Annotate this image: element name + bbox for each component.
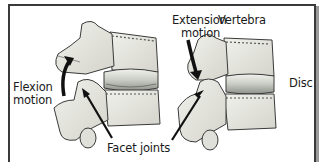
flexion-motion-label: Flexion motion [13, 81, 53, 107]
lower-vertebra-body-left [104, 90, 160, 126]
disc-label: Disc [289, 77, 313, 90]
vertebra-label: Vertebra [218, 14, 266, 27]
upper-posterior-left [56, 21, 114, 74]
spinous-process-right [202, 130, 218, 150]
flexion-segment [54, 21, 160, 148]
spinous-process-left [80, 128, 96, 148]
facet-joints-label: Facet joints [107, 142, 170, 155]
lower-vertebra-body-right [224, 94, 276, 130]
upper-vertebra-body-left [110, 32, 158, 72]
extension-label-line2: motion [172, 27, 227, 40]
disc-left [104, 69, 158, 91]
disc-right [226, 74, 274, 94]
lower-posterior-right [178, 79, 226, 142]
flexion-label-line2: motion [13, 94, 53, 107]
extension-segment [172, 34, 276, 150]
